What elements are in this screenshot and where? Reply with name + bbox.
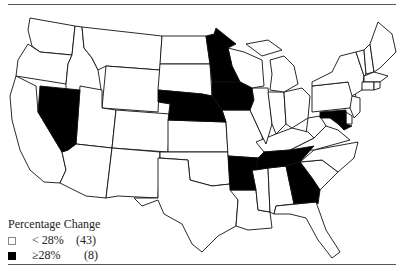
black-swatch-icon — [8, 252, 16, 260]
bottom-rule — [8, 264, 396, 265]
state-wyoming — [102, 66, 160, 112]
state-arizona — [60, 144, 112, 198]
state-connecticut — [362, 82, 374, 90]
state-maine — [370, 22, 396, 72]
state-ohio — [284, 88, 310, 128]
state-colorado — [112, 110, 170, 152]
legend-label: ≥28% — [32, 248, 76, 263]
state-new-jersey — [350, 96, 360, 118]
state-north-dakota — [160, 36, 210, 64]
legend-title: Percentage Change — [8, 217, 100, 232]
legend: Percentage Change < 28% (43) ≥28% (8) — [8, 217, 100, 263]
state-delaware — [346, 112, 352, 124]
legend-item-low: < 28% (43) — [8, 233, 100, 248]
state-rhode-island — [374, 82, 380, 90]
legend-label: < 28% — [32, 233, 76, 248]
state-kansas — [168, 120, 228, 152]
state-florida — [274, 202, 340, 258]
legend-count: (8) — [76, 248, 98, 263]
legend-count: (43) — [76, 233, 96, 248]
legend-item-high: ≥28% (8) — [8, 248, 100, 263]
state-new-mexico — [106, 148, 160, 198]
white-swatch-icon — [8, 237, 16, 245]
